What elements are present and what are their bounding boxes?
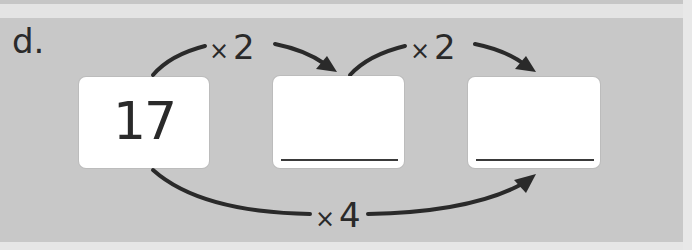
number-box-start: 17	[79, 77, 209, 168]
operation-label-top-2: ×2	[410, 30, 456, 64]
answer-line-2	[476, 159, 594, 161]
operation-label-bottom: ×4	[315, 198, 361, 232]
factor: 4	[339, 195, 361, 235]
factor: 2	[233, 27, 255, 67]
multiply-symbol: ×	[209, 37, 229, 65]
answer-box-1[interactable]	[273, 76, 404, 168]
start-value: 17	[79, 95, 209, 147]
answer-line-1	[281, 159, 398, 161]
answer-box-2[interactable]	[468, 77, 600, 168]
factor: 2	[434, 27, 456, 67]
multiply-symbol: ×	[315, 205, 335, 233]
multiply-symbol: ×	[410, 37, 430, 65]
operation-label-top-1: ×2	[209, 30, 255, 64]
